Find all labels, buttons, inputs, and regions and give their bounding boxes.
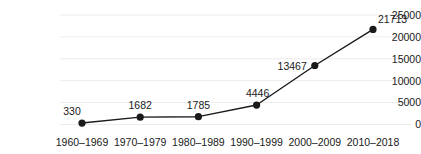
- data-point-label: 4446: [246, 88, 269, 99]
- data-point-marker: [78, 119, 85, 126]
- x-axis-tick-label: 2000–2009: [289, 137, 342, 148]
- chart-plot-area: [0, 0, 421, 154]
- data-point-marker: [195, 113, 202, 120]
- data-point-label: 21713: [378, 14, 407, 25]
- data-line: [82, 29, 373, 123]
- data-point-marker: [369, 26, 376, 33]
- x-axis-tick-label: 2010–2018: [347, 137, 400, 148]
- data-point-label: 330: [63, 106, 81, 117]
- line-chart: 0500010000150002000025000 1960–19691970–…: [0, 0, 421, 154]
- data-point-label: 1682: [129, 100, 152, 111]
- data-point-label: 1785: [187, 100, 210, 111]
- y-axis-tick-label: 15000: [377, 54, 421, 65]
- y-axis-tick-label: 20000: [377, 32, 421, 43]
- x-axis-tick-label: 1970–1979: [114, 137, 167, 148]
- data-point-label: 13467: [278, 61, 307, 72]
- x-axis-tick-label: 1960–1969: [56, 137, 109, 148]
- y-axis-tick-label: 5000: [377, 97, 421, 108]
- data-point-marker: [311, 62, 318, 69]
- y-axis-tick-label: 10000: [377, 76, 421, 87]
- gridlines: [60, 15, 412, 125]
- y-axis-tick-label: 0: [377, 119, 421, 130]
- data-point-marker: [137, 114, 144, 121]
- x-axis-tick-label: 1980–1989: [172, 137, 225, 148]
- data-point-marker: [253, 101, 260, 108]
- x-axis-tick-label: 1990–1999: [230, 137, 283, 148]
